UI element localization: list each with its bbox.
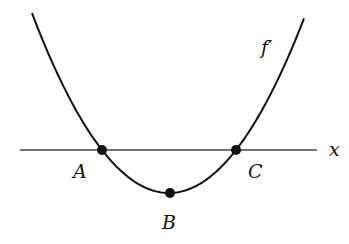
label-b: B [161, 211, 176, 233]
diagram: x f′ A B C [0, 0, 349, 244]
point-c [231, 145, 241, 155]
axis-label: x [329, 138, 340, 160]
point-b [165, 188, 175, 198]
label-a: A [71, 160, 87, 182]
curve-label: f′ [259, 36, 273, 58]
label-c: C [248, 160, 263, 182]
point-a [97, 145, 107, 155]
